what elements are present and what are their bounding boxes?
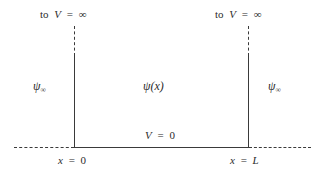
label-psi-outside-right: ψ∞ xyxy=(268,80,281,94)
label-x-right-boundary: x = L xyxy=(230,155,259,166)
top-right-value: ∞ xyxy=(254,8,262,20)
psi-right-subscript: ∞ xyxy=(275,85,281,94)
top-right-symbol: V xyxy=(229,8,236,20)
top-left-symbol: V xyxy=(54,8,61,20)
potential-inside-value: 0 xyxy=(169,129,175,141)
label-top-left-potential: to V = ∞ xyxy=(40,9,87,20)
right-wall-dashed-segment xyxy=(248,26,249,56)
psi-center-argument: (x) xyxy=(150,79,163,93)
x-right-relation: = xyxy=(241,154,247,166)
x-right-value: L xyxy=(253,154,259,166)
right-wall-solid-segment xyxy=(248,55,249,148)
top-left-prefix: to xyxy=(40,8,49,20)
potential-inside-symbol: V xyxy=(145,129,152,141)
x-right-symbol: x xyxy=(230,154,235,166)
axis-extension-left-dashed xyxy=(14,147,74,148)
top-right-prefix: to xyxy=(215,8,224,20)
top-right-relation: = xyxy=(242,8,248,20)
well-floor-line xyxy=(74,147,249,148)
potential-inside-relation: = xyxy=(157,129,163,141)
x-left-value: 0 xyxy=(81,154,87,166)
left-wall-solid-segment xyxy=(74,55,75,148)
x-left-symbol: x xyxy=(58,154,63,166)
psi-left-subscript: ∞ xyxy=(40,85,46,94)
label-top-right-potential: to V = ∞ xyxy=(215,9,262,20)
top-left-relation: = xyxy=(67,8,73,20)
label-potential-inside-well: V = 0 xyxy=(145,130,175,141)
left-wall-dashed-segment xyxy=(74,26,75,56)
label-psi-outside-left: ψ∞ xyxy=(33,80,46,94)
infinite-square-well-figure: to V = ∞ to V = ∞ ψ∞ ψ∞ ψ(x) V = xyxy=(0,0,325,174)
top-left-value: ∞ xyxy=(79,8,87,20)
label-psi-inside-well: ψ(x) xyxy=(143,80,164,92)
axis-extension-right-dashed xyxy=(249,147,311,148)
x-left-relation: = xyxy=(69,154,75,166)
label-x-left-boundary: x = 0 xyxy=(58,155,86,166)
